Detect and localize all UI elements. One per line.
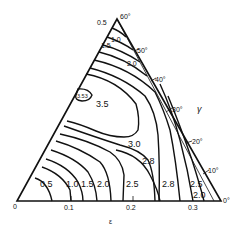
contour-label: 2.0 [127,60,137,67]
contour-label: 1.5 [101,42,111,49]
x-tick-0-2: 0.2 [126,204,136,211]
contour-label: 2.5 [190,179,203,189]
contour-label: 1.0 [111,36,121,43]
contour-label: 2.8 [142,156,155,166]
contour-label: 3.5 [96,99,109,109]
triangle-frame [17,19,221,201]
angle-tick-0: 0° [223,197,230,204]
contours-left [35,126,155,201]
contour-label: 2.0 [193,190,206,200]
angle-tick-10: 10° [208,167,219,174]
angle-tick-20: 20° [192,138,203,145]
x-tick-0-1: 0.1 [64,204,74,211]
x-tick-0-3: 0.3 [188,204,198,211]
angle-tick-50: 50° [137,47,148,54]
contour-label: 2.8 [162,179,175,189]
contour-label: 2.5 [126,179,139,189]
x-axis-label: ε [109,218,112,225]
contours-apex [90,28,180,201]
angle-axis-label: γ [197,104,202,114]
angle-tick-30: 30° [172,106,183,113]
contour-label: 2.0 [97,179,110,189]
angle-tick-40: 40° [155,76,166,83]
contour-label: 0.5 [97,19,107,26]
ternary-contour-diagram: 0 0.1 0.2 0.3 ε 60° 50° 40° 30° 20° 10° … [0,0,243,228]
contour-label: 1.0 [66,179,79,189]
x-tick-0: 0 [13,203,17,210]
contour-label: 3.0 [128,139,141,149]
contour-label-peak: 3.53 [77,93,88,99]
contour-label: 1.5 [81,179,94,189]
angle-tick-60: 60° [120,13,131,20]
contour-label: 0.5 [40,179,53,189]
